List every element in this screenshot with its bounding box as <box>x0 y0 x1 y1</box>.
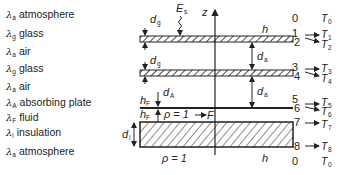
collector-cross-section: z E s h h dg dg da da dA hF hF ρ = 1 F <box>0 0 342 175</box>
svg-text:0: 0 <box>328 161 332 168</box>
layer-numbers: 0 1 2 3 4 5 6 7 8 0 <box>292 12 300 167</box>
svg-text:8: 8 <box>328 146 332 153</box>
svg-text:h: h <box>262 152 268 164</box>
svg-text:F: F <box>146 100 150 107</box>
svg-text:ρ = 1: ρ = 1 <box>163 108 189 120</box>
svg-text:6: 6 <box>294 102 300 114</box>
svg-text:d: d <box>122 128 129 140</box>
svg-text:d: d <box>150 54 157 66</box>
svg-text:7: 7 <box>294 116 300 128</box>
irradiance-arrow <box>179 16 182 35</box>
svg-text:d: d <box>257 85 264 97</box>
z-axis-label: z <box>201 6 208 18</box>
svg-text:0: 0 <box>328 18 332 25</box>
svg-text:6: 6 <box>328 111 332 118</box>
svg-text:3: 3 <box>328 68 332 75</box>
svg-text:s: s <box>184 8 188 15</box>
svg-text:4: 4 <box>328 78 332 85</box>
svg-text:A: A <box>170 92 175 99</box>
svg-text:2: 2 <box>294 36 300 48</box>
svg-text:d: d <box>257 50 264 62</box>
svg-text:7: 7 <box>328 124 332 131</box>
svg-text:g: g <box>157 19 161 27</box>
svg-text:E: E <box>176 2 184 14</box>
insulation-layer <box>140 122 293 147</box>
temperature-labels: T0 T1 T2 T3 T4 T5 T6 T7 T8 T0 <box>321 12 332 168</box>
svg-text:i: i <box>129 134 130 141</box>
svg-text:a: a <box>264 56 268 63</box>
svg-text:ρ = 1: ρ = 1 <box>161 152 187 164</box>
svg-text:4: 4 <box>294 70 300 82</box>
svg-text:8: 8 <box>294 140 300 152</box>
svg-text:2: 2 <box>328 44 332 51</box>
glass-layer-1 <box>140 36 293 42</box>
svg-text:1: 1 <box>328 34 332 41</box>
svg-text:5: 5 <box>328 102 332 109</box>
svg-text:0: 0 <box>292 12 298 24</box>
svg-text:d: d <box>150 13 157 25</box>
svg-text:g: g <box>157 60 161 68</box>
svg-text:d: d <box>163 86 170 98</box>
glass-layer-2 <box>140 70 293 76</box>
svg-text:h: h <box>262 23 268 35</box>
svg-text:F: F <box>146 114 150 121</box>
svg-text:0: 0 <box>292 155 298 167</box>
svg-text:F: F <box>207 109 215 121</box>
svg-text:a: a <box>264 91 268 98</box>
